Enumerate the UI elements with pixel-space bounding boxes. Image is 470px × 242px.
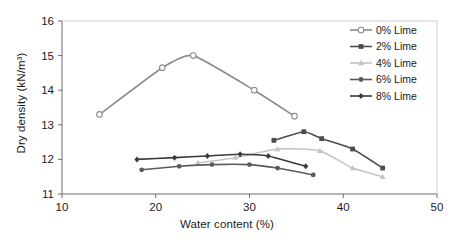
data-point-marker [303,163,308,169]
series-2-lime [271,129,385,170]
legend-item-6-lime[interactable]: 6% Lime [350,73,417,85]
data-point-marker [292,113,298,119]
data-point-marker [359,77,364,82]
data-point-marker [358,27,364,33]
series-6-lime [139,162,315,177]
data-point-marker [358,93,363,99]
data-point-marker [172,155,177,161]
data-point-marker [275,166,280,171]
data-point-marker [134,156,139,162]
legend-label: 8% Lime [376,90,417,102]
data-point-marker [139,167,144,172]
data-point-marker [160,65,166,71]
legend-item-8-lime[interactable]: 8% Lime [350,90,417,102]
y-axis-title: Dry density (kN/m³) [15,38,27,168]
legend-item-4-lime[interactable]: 4% Lime [350,57,417,69]
data-point-marker [177,164,182,169]
data-point-marker [380,166,385,171]
x-tick-label: 30 [243,201,256,213]
data-point-marker [190,53,196,59]
legend-item-0-lime[interactable]: 0% Lime [350,24,417,36]
series-line [100,55,295,116]
y-tick-label: 15 [41,50,54,62]
legend-label: 4% Lime [376,57,417,69]
data-point-marker [271,138,276,143]
x-tick-label: 50 [431,201,444,213]
x-tick-label: 20 [149,201,162,213]
y-tick-label: 11 [42,188,54,200]
chart-legend: 0% Lime2% Lime4% Lime6% Lime8% Lime [350,24,417,102]
data-point-marker [247,162,252,167]
x-tick-label: 10 [56,201,69,213]
data-point-marker [350,147,355,152]
series-line [198,149,383,177]
series-line [142,164,314,175]
y-tick-label: 13 [41,119,54,131]
y-tick-label: 14 [41,84,54,96]
data-point-marker [311,173,316,178]
legend-item-2-lime[interactable]: 2% Lime [350,40,417,52]
series-0-lime [97,53,298,119]
data-point-marker [266,153,271,159]
legend-label: 6% Lime [376,73,417,85]
y-tick-label: 16 [41,15,54,27]
x-axis-ticks: 1020304050 [56,194,444,213]
data-point-marker [210,162,215,167]
data-point-marker [359,44,364,49]
legend-label: 2% Lime [376,40,417,52]
y-tick-label: 12 [41,153,54,165]
data-point-marker [251,87,257,93]
x-tick-label: 40 [337,201,350,213]
data-point-marker [301,129,306,134]
data-point-marker [97,112,103,118]
chart-figure: 111213141516 1020304050 0% Lime2% Lime4%… [0,0,470,242]
chart-plot-area: 111213141516 1020304050 0% Lime2% Lime4%… [0,0,470,242]
legend-label: 0% Lime [376,24,417,36]
data-point-marker [319,136,324,141]
x-axis-title: Water content (%) [180,218,274,230]
data-point-marker [205,153,210,159]
y-axis-ticks: 111213141516 [41,15,62,200]
data-series-layer [97,53,386,179]
